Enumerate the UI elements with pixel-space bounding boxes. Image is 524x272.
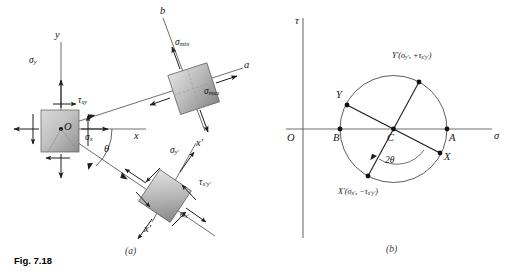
axis-label-x: x — [134, 131, 139, 142]
x-prime-close: ) — [375, 187, 378, 196]
y-prime-close: ) — [429, 51, 432, 60]
panel-a-original-element — [14, 80, 108, 178]
x-prime-mid: , −τ — [355, 187, 368, 196]
figure-7-18: y x a b x′ x′ O θ σy τxy σx σmax σmin σy… — [0, 0, 524, 272]
point-Y-prime — [417, 80, 422, 85]
axis-label-b: b — [160, 6, 165, 17]
panel-b-two-theta-arc — [368, 150, 424, 164]
tau-x-prime-y-prime-subscript: x′y′ — [202, 180, 211, 187]
sigma-y-subscript: y — [34, 58, 37, 65]
label-tau-xy: τxy — [78, 96, 87, 106]
panel-b-origin-label: O — [287, 133, 295, 144]
panel-b-label-B: B — [333, 133, 339, 144]
theta-label: θ — [104, 144, 109, 155]
label-sigma-x: σx — [85, 133, 93, 143]
sigma-min-subscript: min — [180, 40, 190, 47]
panel-b-tau-axis-label: τ — [295, 16, 299, 27]
axis-label-a: a — [244, 60, 249, 71]
panel-a-axis-x-prime — [62, 132, 215, 236]
figure-vector-layer — [0, 0, 524, 272]
panel-b-label-X-prime-coords: X′(σx′, −τx′y′) — [338, 188, 378, 197]
sigma-y-prime-subscript: y′ — [175, 148, 179, 155]
panel-b-label: (b) — [386, 244, 397, 254]
panel-b-label-X: X — [444, 152, 450, 163]
y-prime-sub2: x′y′ — [421, 54, 428, 60]
x-prime-open: X′(σ — [338, 187, 352, 196]
tau-xy-subscript: xy — [81, 98, 87, 105]
panel-b-sigma-axis-label: σ — [494, 131, 499, 142]
point-B — [338, 127, 343, 132]
axis-label-y: y — [55, 30, 60, 41]
label-sigma-min: σmin — [175, 38, 189, 48]
panel-b-label-Y: Y — [336, 90, 342, 101]
point-X-prime — [366, 174, 371, 179]
origin-label-a: O — [64, 122, 72, 133]
axis-label-y-prime: x′ — [144, 224, 151, 235]
y-prime-mid: , +τ — [409, 51, 422, 60]
label-sigma-x-prime: σx′ — [180, 210, 189, 220]
panel-b-label-A: A — [449, 133, 455, 144]
sigma-x-subscript: x — [90, 135, 93, 142]
label-sigma-y: σy — [29, 56, 37, 66]
label-sigma-y-prime: σy′ — [170, 146, 179, 156]
panel-b-label-Y-prime-coords: Y′(σy′, +τx′y′) — [392, 52, 431, 61]
sigma-x-prime-subscript: x′ — [185, 212, 189, 219]
y-prime-open: Y′(σ — [392, 51, 405, 60]
panel-a-label: (a) — [125, 246, 136, 256]
panel-b-two-theta-label: 2θ — [385, 156, 394, 166]
figure-caption: Fig. 7.18 — [14, 255, 52, 266]
point-X — [438, 151, 443, 156]
label-tau-x-prime-y-prime: τx′y′ — [199, 178, 211, 188]
point-A — [445, 127, 450, 132]
label-sigma-max: σmax — [204, 87, 219, 97]
axis-label-x-prime: x′ — [196, 138, 203, 149]
point-Y — [345, 103, 350, 108]
sigma-max-subscript: max — [209, 89, 220, 96]
panel-b-label-C: C — [387, 133, 394, 144]
point-C — [391, 127, 396, 132]
